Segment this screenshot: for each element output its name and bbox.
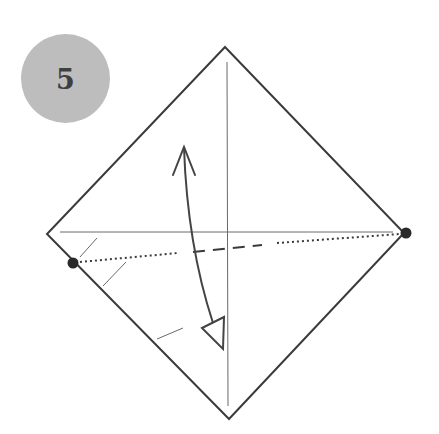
hatch-line bbox=[80, 238, 97, 257]
hatch-line bbox=[103, 262, 126, 286]
hatch-line bbox=[157, 328, 183, 339]
paper-square-outline bbox=[47, 47, 404, 419]
fold-unfold-arrow-shaft bbox=[184, 148, 213, 323]
valley-fold-dotted-right bbox=[277, 234, 400, 243]
vertical-crease-line bbox=[227, 62, 228, 406]
valley-fold-dotted-left bbox=[80, 253, 178, 262]
hatch-lines bbox=[80, 238, 183, 339]
right-dot bbox=[401, 228, 412, 239]
origami-step-diagram: 5 bbox=[0, 0, 439, 434]
arrow-head-bottom-open-icon bbox=[202, 317, 224, 349]
fold-diagram bbox=[0, 0, 439, 434]
left-dot bbox=[68, 258, 79, 269]
